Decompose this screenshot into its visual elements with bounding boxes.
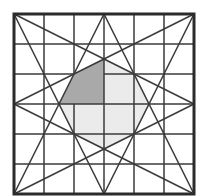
geometric-diagram [0,0,201,196]
square-grid [14,14,194,194]
dark-shaded-region [59,59,104,104]
